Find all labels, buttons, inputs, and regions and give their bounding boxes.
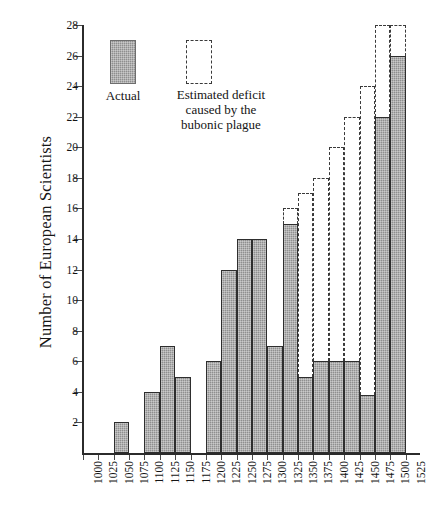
estimate-outline — [298, 193, 313, 376]
y-tick-label: 12 — [52, 262, 78, 278]
x-tick-label: 1475 — [384, 461, 396, 505]
bar — [313, 361, 328, 453]
x-tick-label: 1225 — [230, 461, 242, 505]
estimate-outline — [313, 178, 328, 361]
x-tick-label: 1250 — [246, 461, 258, 505]
bar — [344, 361, 359, 453]
x-tick-mark — [98, 455, 99, 460]
x-tick-label: 1000 — [92, 461, 104, 505]
x-tick-label: 1300 — [276, 461, 288, 505]
x-tick-label: 1200 — [215, 461, 227, 505]
x-tick-label: 1025 — [107, 461, 119, 505]
x-tick-label: 1125 — [169, 461, 181, 505]
x-tick-mark — [221, 455, 222, 460]
x-tick-mark — [360, 455, 361, 460]
bar — [221, 270, 236, 453]
y-tick-label: 26 — [52, 48, 78, 64]
x-tick-mark — [160, 455, 161, 460]
x-axis-line — [82, 453, 420, 455]
bar — [206, 361, 221, 453]
x-tick-mark — [114, 455, 115, 460]
x-tick-mark — [83, 455, 84, 460]
x-tick-label: 1275 — [261, 461, 273, 505]
bar — [144, 392, 159, 453]
bar — [329, 361, 344, 453]
y-tick-label: 8 — [52, 323, 78, 339]
x-tick-label: 1500 — [399, 461, 411, 505]
plot-area: 246810121416182022242628 100010251050107… — [82, 25, 420, 455]
x-tick-label: 1425 — [353, 461, 365, 505]
x-tick-label: 1100 — [153, 461, 165, 505]
legend-swatch-actual — [110, 40, 136, 84]
bar — [283, 224, 298, 453]
x-tick-label: 1325 — [292, 461, 304, 505]
y-tick-label: 16 — [52, 200, 78, 216]
x-tick-mark — [298, 455, 299, 460]
y-tick-label: 14 — [52, 231, 78, 247]
legend-label-estimate-line2: caused by the — [156, 102, 286, 117]
x-tick-label: 1450 — [369, 461, 381, 505]
x-tick-label: 1175 — [200, 461, 212, 505]
x-tick-mark — [267, 455, 268, 460]
x-tick-label: 1525 — [415, 461, 427, 505]
estimate-outline — [329, 147, 344, 361]
x-tick-mark — [406, 455, 407, 460]
x-tick-label: 1150 — [184, 461, 196, 505]
legend-label-estimate-line1: Estimated deficit — [156, 87, 286, 102]
x-tick-mark — [390, 455, 391, 460]
x-tick-label: 1075 — [138, 461, 150, 505]
y-tick-label: 22 — [52, 109, 78, 125]
legend-label-actual: Actual — [88, 88, 158, 104]
estimate-outline — [283, 208, 298, 223]
y-tick-label: 6 — [52, 353, 78, 369]
chart-container: Number of European Scientists 2468101214… — [0, 0, 432, 508]
x-tick-mark — [313, 455, 314, 460]
x-tick-mark — [283, 455, 284, 460]
x-tick-mark — [144, 455, 145, 460]
y-tick-label: 28 — [52, 17, 78, 33]
x-tick-mark — [344, 455, 345, 460]
y-tick-label: 18 — [52, 170, 78, 186]
x-tick-mark — [206, 455, 207, 460]
legend-label-estimate: Estimated deficit caused by the bubonic … — [156, 87, 286, 132]
y-tick-label: 24 — [52, 78, 78, 94]
bar — [160, 346, 175, 453]
legend: Actual Estimated deficit caused by the b… — [82, 25, 420, 175]
bar — [175, 377, 190, 453]
y-tick-label: 20 — [52, 139, 78, 155]
y-tick-label: 2 — [52, 414, 78, 430]
bar — [360, 395, 375, 453]
x-tick-mark — [252, 455, 253, 460]
x-tick-label: 1050 — [123, 461, 135, 505]
bar — [298, 377, 313, 453]
x-tick-mark — [329, 455, 330, 460]
x-tick-label: 1400 — [338, 461, 350, 505]
x-tick-mark — [237, 455, 238, 460]
bar — [114, 422, 129, 453]
x-tick-label: 1350 — [307, 461, 319, 505]
x-tick-label: 1375 — [322, 461, 334, 505]
legend-label-estimate-line3: bubonic plague — [156, 117, 286, 132]
x-tick-mark — [175, 455, 176, 460]
bar — [267, 346, 282, 453]
y-tick-label: 10 — [52, 292, 78, 308]
x-tick-mark — [191, 455, 192, 460]
bar — [237, 239, 252, 453]
legend-swatch-estimate — [186, 40, 212, 84]
x-tick-mark — [129, 455, 130, 460]
y-tick-label: 4 — [52, 384, 78, 400]
x-tick-mark — [375, 455, 376, 460]
bar — [252, 239, 267, 453]
